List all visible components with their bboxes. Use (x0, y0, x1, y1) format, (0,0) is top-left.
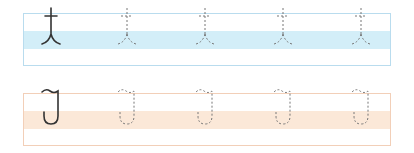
trace-character-icon (190, 6, 220, 56)
trace-character-icon (190, 86, 220, 136)
model-character-icon (36, 6, 66, 56)
practice-row-1 (23, 13, 391, 66)
trace-character-icon (346, 86, 376, 136)
trace-character-icon (112, 86, 142, 136)
trace-character-icon (346, 6, 376, 56)
model-character-icon (36, 86, 66, 136)
trace-character-icon (268, 86, 298, 136)
trace-character-icon (112, 6, 142, 56)
practice-row-2 (23, 93, 391, 146)
trace-character-icon (268, 6, 298, 56)
